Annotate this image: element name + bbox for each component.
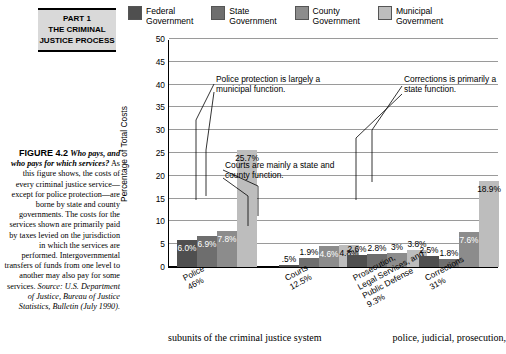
legend-state: StateGovernment [211, 6, 276, 26]
y-axis-tick: 20 [156, 171, 165, 181]
y-axis-label: Percentage of Total Costs [119, 106, 129, 202]
y-axis-tick: 10 [156, 216, 165, 226]
bar: 2.5% [419, 256, 439, 267]
legend-state-label-line2: Government [229, 16, 276, 26]
part-banner-line1: PART 1 [38, 13, 116, 24]
bar-value-label: 6.9% [197, 239, 216, 249]
legend-state-swatch-icon [211, 6, 225, 20]
legend-federal: FederalGovernment [128, 6, 193, 26]
legend-municipal-label-line1: Municipal [396, 6, 443, 16]
figure-caption: FIGURE 4.2 Who pays, and who pays for wh… [4, 148, 120, 312]
legend-municipal: MunicipalGovernment [378, 6, 443, 26]
bar-value-label: 1.9% [299, 247, 318, 257]
annotation-courts: Courts are mainly a state and county fun… [225, 160, 337, 180]
y-axis-tick: 30 [156, 125, 165, 135]
bar-value-label: 2.8% [367, 243, 386, 253]
legend-federal-swatch-icon [128, 6, 142, 20]
chart-legend: FederalGovernmentStateGovernmentCountyGo… [128, 6, 443, 26]
body-text: subunits of the criminal justice system … [168, 332, 506, 344]
bar-value-label: 2.6% [347, 244, 366, 254]
legend-state-label: StateGovernment [229, 6, 276, 26]
legend-federal-label-line2: Government [146, 16, 193, 26]
bar: 6.0% [177, 240, 197, 267]
bar-value-label: 7.6% [459, 235, 478, 245]
bar-value-label: 7.8% [217, 234, 236, 244]
bar: 7.8% [217, 231, 237, 267]
figure-number: FIGURE 4.2 [19, 148, 68, 158]
legend-county-label-line2: Government [313, 16, 360, 26]
bar: 4.6% [319, 246, 339, 267]
y-axis-tick: 35 [156, 102, 165, 112]
annotation-police: Police protection is largely a municipal… [216, 74, 334, 94]
body-text-left: subunits of the criminal justice system [168, 332, 322, 344]
bar-value-label: 18.9% [477, 184, 501, 194]
gridline [169, 129, 498, 130]
legend-municipal-swatch-icon [378, 6, 392, 20]
bar: 6.9% [197, 236, 217, 267]
legend-federal-label-line1: Federal [146, 6, 193, 16]
legend-municipal-label: MunicipalGovernment [396, 6, 443, 26]
legend-municipal-label-line2: Government [396, 16, 443, 26]
legend-county-label: CountyGovernment [313, 6, 360, 26]
part-banner-line3: JUSTICE PROCESS [38, 35, 116, 46]
figure-body: As this figure shows, the costs of every… [4, 159, 120, 290]
legend-county-swatch-icon [295, 6, 309, 20]
annotation-corrections: Corrections is primarily a state functio… [404, 74, 500, 94]
gridline [169, 61, 498, 62]
y-axis-tick: 25 [156, 148, 165, 158]
bar-value-label: 2.5% [419, 245, 438, 255]
bar: 18.9% [479, 181, 499, 267]
legend-county: CountyGovernment [295, 6, 360, 26]
bar-value-label: 4.6% [319, 249, 338, 259]
body-text-right: police, judicial, prosecution, [392, 332, 506, 344]
y-axis-tick: 15 [156, 194, 165, 204]
x-axis-category-label: Police46% [181, 263, 211, 291]
part-banner-line2: THE CRIMINAL [38, 24, 116, 35]
bar-value-label: 6.0% [177, 243, 196, 253]
bar: 2.6% [347, 255, 367, 267]
legend-county-label-line1: County [313, 6, 360, 16]
legend-federal-label: FederalGovernment [146, 6, 193, 26]
gridline [169, 106, 498, 107]
y-axis-tick: 0 [160, 262, 165, 272]
y-axis-tick: 45 [156, 57, 165, 67]
legend-state-label-line1: State [229, 6, 276, 16]
part-banner: PART 1 THE CRIMINAL JUSTICE PROCESS [38, 8, 116, 52]
y-axis-tick: 5 [160, 239, 165, 249]
y-axis-tick: 40 [156, 80, 165, 90]
y-axis-tick: 50 [156, 34, 165, 44]
bar-value-label: .5% [282, 254, 296, 264]
gridline [169, 38, 498, 39]
